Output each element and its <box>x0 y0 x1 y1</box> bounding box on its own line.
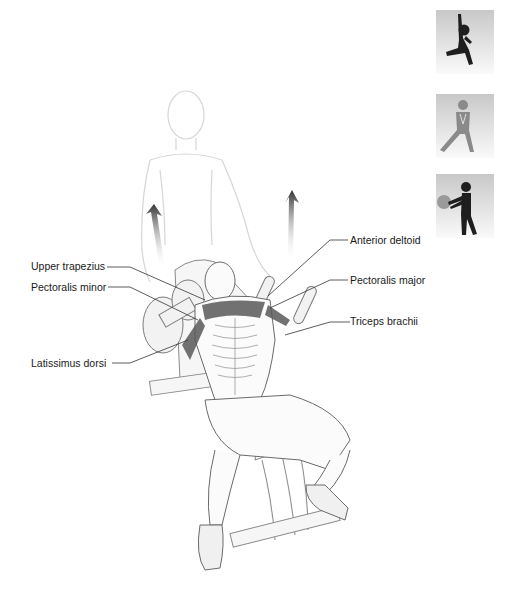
lifter-figure <box>195 262 350 525</box>
medicine-ball-icon <box>436 174 494 238</box>
lift-arrows <box>146 190 299 270</box>
label-triceps-brachii: Triceps brachii <box>350 315 418 327</box>
label-anterior-deltoid: Anterior deltoid <box>350 234 421 246</box>
label-pectoralis-minor: Pectoralis minor <box>31 281 106 293</box>
stretch-lunge-icon <box>436 10 494 74</box>
exercise-illustration: Upper trapezius Pectoralis minor Latissi… <box>0 0 510 596</box>
label-latissimus-dorsi: Latissimus dorsi <box>31 357 106 369</box>
anatomy-drawing <box>0 0 510 596</box>
label-upper-trapezius: Upper trapezius <box>31 260 105 272</box>
label-pectoralis-major: Pectoralis major <box>350 274 425 286</box>
side-lunge-icon <box>436 94 494 158</box>
